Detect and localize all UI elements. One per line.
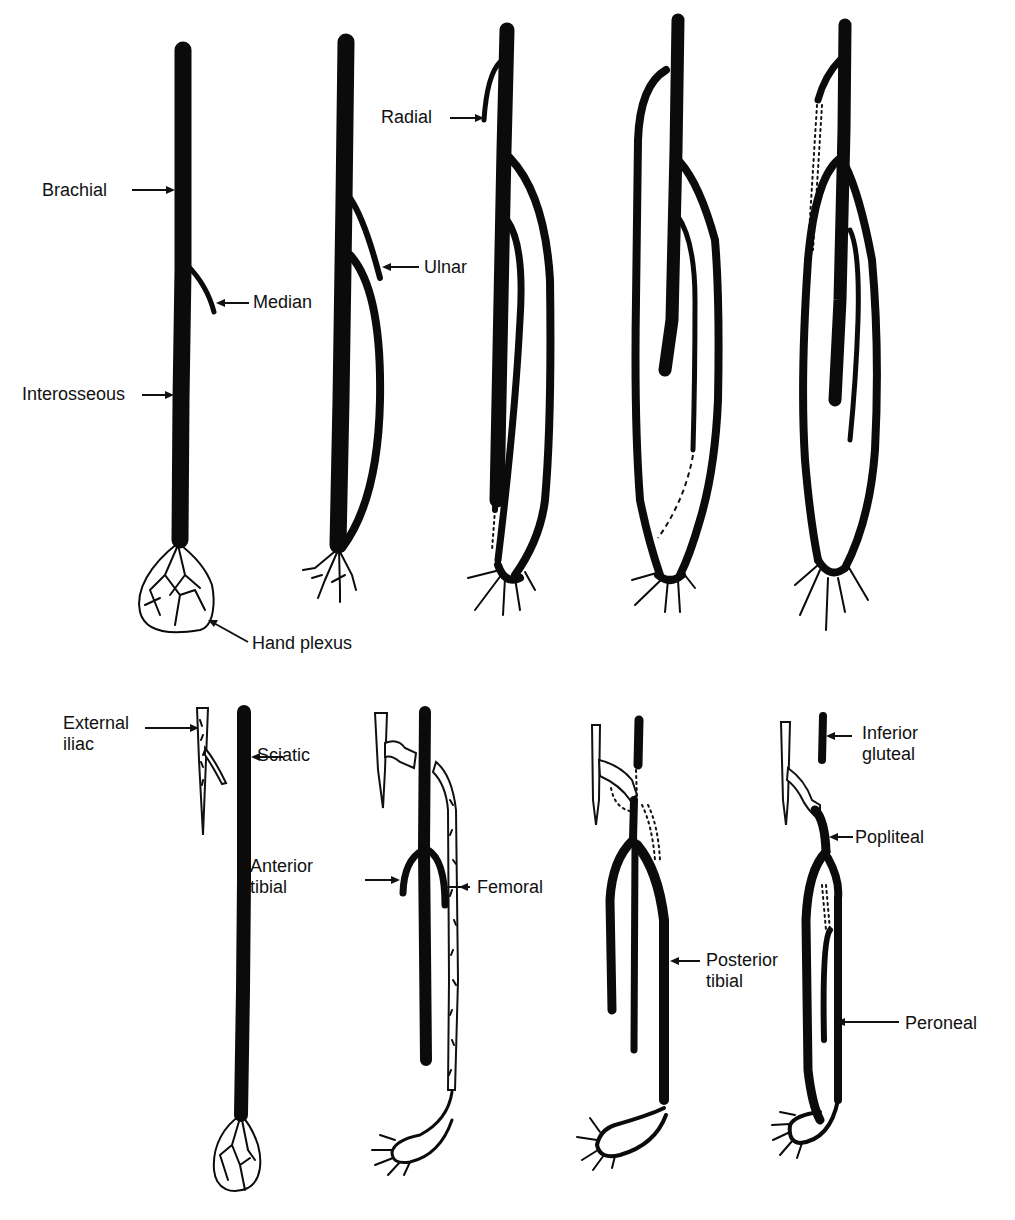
lower-limb-stage-2 [372,712,458,1175]
label-sciatic: Sciatic [257,745,310,766]
label-inferior-gluteal: Inferior gluteal [862,723,918,765]
lower-limb-stage-4 [772,716,838,1158]
label-popliteal: Popliteal [855,827,924,848]
label-peroneal: Peroneal [905,1013,977,1034]
label-femoral: Femoral [477,877,543,898]
label-external-iliac: External iliac [63,713,129,755]
label-brachial: Brachial [42,180,107,201]
label-ulnar: Ulnar [424,257,467,278]
upper-limb-stage-1 [139,50,214,632]
lower-limb-stage-3 [577,720,666,1170]
label-radial: Radial [381,107,432,128]
label-posterior-tibial: Posterior tibial [706,950,778,992]
upper-limb-stage-5 [795,25,877,630]
label-anterior-tibial: Anterior tibial [250,856,313,898]
label-median: Median [253,292,312,313]
upper-limb-stage-4 [632,20,719,612]
label-interosseous: Interosseous [22,384,125,405]
label-hand-plexus: Hand plexus [252,633,352,654]
upper-limb-stage-2 [303,42,380,602]
artery-development-diagram [0,0,1015,1220]
lower-limb-stage-1 [197,708,260,1191]
